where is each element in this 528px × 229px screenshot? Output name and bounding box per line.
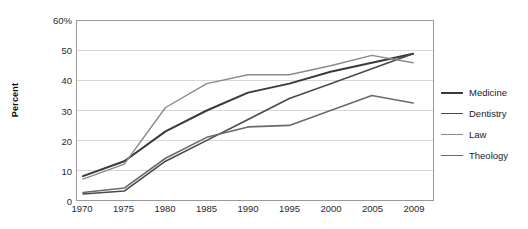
chart-legend: MedicineDentistryLawTheology <box>441 82 527 166</box>
legend-line-icon <box>441 113 463 114</box>
legend-line-icon <box>441 134 463 135</box>
y-axis-tick-labels: 0102030405060% <box>20 0 72 229</box>
y-axis-tick-label: 30 <box>26 105 72 116</box>
y-axis-tick-label: 0 <box>26 196 72 207</box>
y-axis-tick-label: 20 <box>26 135 72 146</box>
series-line-law <box>83 55 413 179</box>
x-axis-tick-label: 1985 <box>196 203 217 214</box>
x-axis-tick-labels: 197019751980198519901995200020052009 <box>76 203 434 223</box>
x-axis-tick-label: 1975 <box>113 203 134 214</box>
y-axis-tick-label: 10 <box>26 165 72 176</box>
y-axis-tick-label: 60% <box>26 15 72 26</box>
legend-item-label: Medicine <box>469 87 507 98</box>
series-lines <box>77 21 433 200</box>
legend-item-label: Law <box>469 129 486 140</box>
legend-line-icon <box>441 155 463 156</box>
legend-line-icon <box>441 92 463 94</box>
x-axis-tick-label: 1970 <box>71 203 92 214</box>
x-axis-tick-label: 2009 <box>403 203 424 214</box>
x-axis-tick-label: 1990 <box>237 203 258 214</box>
legend-item-law[interactable]: Law <box>441 124 527 145</box>
x-axis-tick-label: 2000 <box>320 203 341 214</box>
y-axis-title-text: Percent <box>10 83 20 117</box>
x-axis-tick-label: 1995 <box>279 203 300 214</box>
legend-item-label: Dentistry <box>469 108 506 119</box>
x-axis-tick-label: 2005 <box>362 203 383 214</box>
chart-figure: Percent 0102030405060% 19701975198019851… <box>0 0 528 229</box>
y-axis-tick-label: 40 <box>26 75 72 86</box>
legend-item-label: Theology <box>469 150 508 161</box>
y-axis-tick-label: 50 <box>26 45 72 56</box>
plot-area <box>76 20 434 201</box>
legend-item-medicine[interactable]: Medicine <box>441 82 527 103</box>
x-axis-tick-label: 1980 <box>154 203 175 214</box>
legend-item-dentistry[interactable]: Dentistry <box>441 103 527 124</box>
legend-item-theology[interactable]: Theology <box>441 145 527 166</box>
